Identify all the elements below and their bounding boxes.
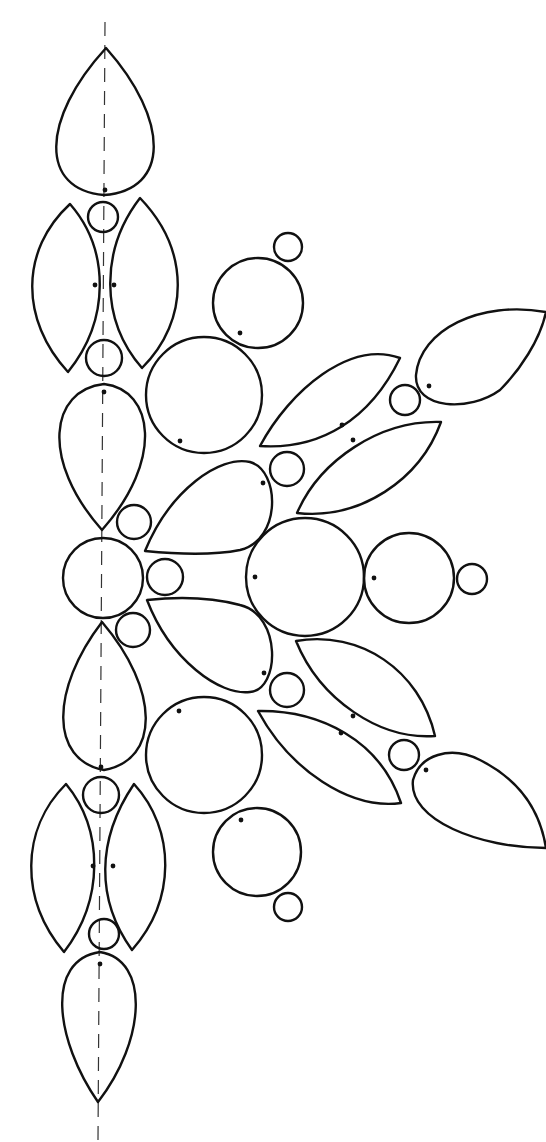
start-point-dot <box>99 765 104 770</box>
start-point-dot <box>424 768 429 773</box>
start-point-dot <box>238 331 243 336</box>
start-point-dot <box>262 671 267 676</box>
start-point-dot <box>91 864 96 869</box>
start-point-dot <box>253 575 258 580</box>
start-point-dot <box>177 709 182 714</box>
start-point-dot <box>103 188 108 193</box>
background <box>0 0 546 1142</box>
start-point-dot <box>102 390 107 395</box>
start-point-dot <box>372 576 377 581</box>
start-point-dot <box>339 731 344 736</box>
start-point-dot <box>351 714 356 719</box>
start-point-dot <box>261 481 266 486</box>
start-point-dot <box>340 423 345 428</box>
tatting-pattern-diagram <box>0 0 546 1142</box>
start-point-dot <box>427 384 432 389</box>
start-point-dot <box>351 438 356 443</box>
start-point-dot <box>112 283 117 288</box>
start-point-dot <box>178 439 183 444</box>
start-point-dot <box>98 962 103 967</box>
start-point-dot <box>111 864 116 869</box>
start-point-dot <box>93 283 98 288</box>
start-point-dot <box>239 818 244 823</box>
